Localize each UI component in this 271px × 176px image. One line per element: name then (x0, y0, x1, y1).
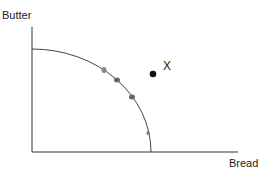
ppf-chart (0, 0, 271, 176)
y-axis-label: Butter (2, 9, 31, 21)
curve-point (147, 131, 150, 135)
curve-point (114, 78, 120, 83)
x-axis-label: Bread (229, 157, 258, 169)
point-x-marker (150, 71, 157, 78)
point-x-label: X (163, 59, 171, 73)
curve-point (102, 67, 107, 73)
curve-points (102, 67, 150, 135)
curve-point (129, 95, 135, 100)
ppf-curve (32, 49, 151, 152)
